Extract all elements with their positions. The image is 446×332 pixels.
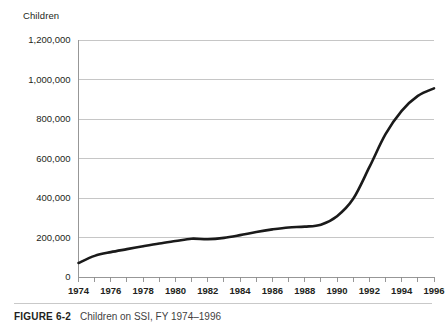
line-chart-plot: 0200,000400,000600,000800,0001,000,0001,… — [0, 0, 446, 300]
y-axis-tick-label: 1,200,000 — [28, 34, 70, 45]
gridlines-group — [79, 40, 435, 238]
x-axis-tick-label: 1994 — [391, 285, 413, 296]
y-axis-tick-label: 1,000,000 — [28, 74, 70, 85]
caption-divider — [14, 303, 432, 304]
x-axis-tick-label: 1986 — [262, 285, 283, 296]
series-line-children-on-ssi — [79, 88, 435, 263]
x-axis-tick-label: 1988 — [294, 285, 315, 296]
y-axis-tick-label: 400,000 — [36, 192, 70, 203]
y-axis-tick-labels: 0200,000400,000600,000800,0001,000,0001,… — [28, 34, 70, 282]
y-axis-tick-label: 800,000 — [36, 113, 70, 124]
x-axis-tick-label: 1974 — [68, 285, 90, 296]
x-axis-tick-label: 1982 — [197, 285, 218, 296]
x-axis-tick-label: 1992 — [359, 285, 380, 296]
x-axis-tick-label: 1976 — [100, 285, 121, 296]
axis-lines — [79, 40, 435, 282]
x-axis-tick-label: 1996 — [423, 285, 444, 296]
data-series-group — [79, 88, 435, 263]
x-axis-tick-label: 1980 — [165, 285, 186, 296]
x-axis-tick-label: 1984 — [230, 285, 252, 296]
y-axis-tick-label: 0 — [65, 271, 70, 282]
figure-caption-label: FIGURE 6-2 — [14, 311, 71, 322]
figure-caption-title: Children on SSI, FY 1974–1996 — [80, 311, 221, 322]
y-axis-tick-label: 200,000 — [36, 232, 70, 243]
figure-caption: FIGURE 6-2Children on SSI, FY 1974–1996 — [14, 311, 221, 322]
x-axis-tick-label: 1990 — [326, 285, 347, 296]
x-axis-tick-labels: 1974197619781980198219841986198819901992… — [68, 285, 445, 296]
figure-container: Children 0200,000400,000600,000800,0001,… — [0, 0, 446, 332]
figure-caption-bar: FIGURE 6-2Children on SSI, FY 1974–1996 — [0, 303, 446, 332]
x-axis-tick-label: 1978 — [133, 285, 154, 296]
y-axis-tick-label: 600,000 — [36, 153, 70, 164]
